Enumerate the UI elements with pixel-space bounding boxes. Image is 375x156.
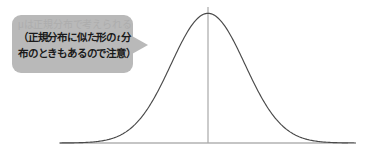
callout-line-1-part-b: 分: [121, 31, 131, 43]
normal-distribution-figure: μは正規分布で考えられる （正規分布に似た形のt分 布のときもあるので注意）: [0, 0, 375, 156]
callout-line-2: 布のときもあるので注意）: [18, 46, 129, 61]
callout-faded-line: μは正規分布で考えられる: [18, 18, 129, 31]
callout-line-1-part-a: （正規分布に似た形の: [18, 31, 116, 43]
callout-line-1: （正規分布に似た形のt分: [18, 30, 129, 46]
callout-text-block: μは正規分布で考えられる （正規分布に似た形のt分 布のときもあるので注意）: [12, 15, 133, 73]
